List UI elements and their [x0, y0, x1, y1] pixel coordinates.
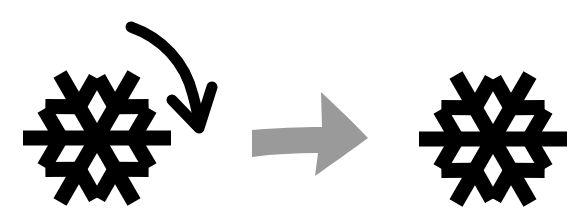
diagram-canvas: Snowflake rotated clockwise results in a…: [0, 0, 584, 222]
snowflake-icon-after: [419, 60, 567, 217]
right-arrow-icon: [252, 92, 368, 176]
snowflake-icon-before: [23, 59, 171, 216]
